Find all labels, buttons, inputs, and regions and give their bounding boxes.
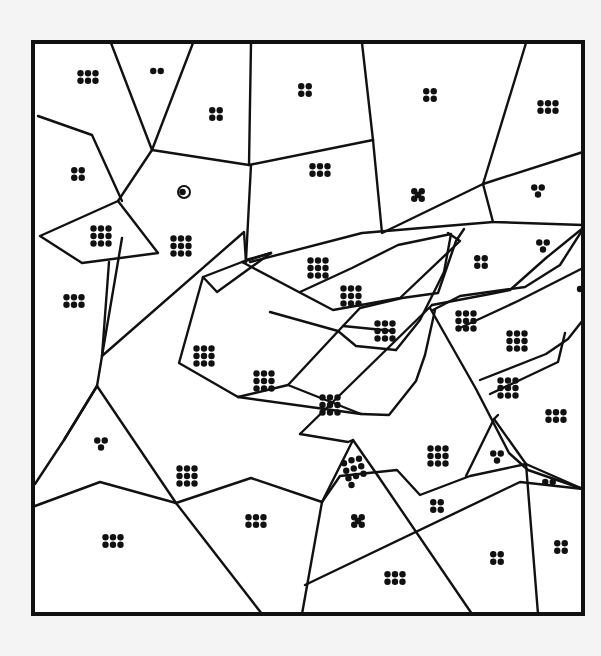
dot — [77, 78, 83, 84]
dot — [427, 460, 433, 466]
dot — [98, 225, 104, 231]
dot — [482, 263, 488, 269]
dot — [497, 377, 503, 383]
dot — [340, 293, 346, 299]
dot — [553, 409, 559, 415]
dot — [562, 548, 568, 554]
dot — [351, 465, 357, 471]
dot — [209, 107, 215, 113]
dot — [102, 534, 108, 540]
dot — [470, 325, 476, 331]
dot — [170, 243, 176, 249]
dot — [170, 235, 176, 241]
dot — [105, 240, 111, 246]
dot — [392, 571, 398, 577]
dot-cluster-r12 — [170, 235, 191, 256]
dot — [309, 163, 315, 169]
dot — [542, 479, 548, 485]
dot — [110, 542, 116, 548]
dot — [382, 335, 388, 341]
dot — [78, 302, 84, 308]
dot — [193, 353, 199, 359]
dot — [505, 392, 511, 398]
dot — [550, 479, 556, 485]
dot — [98, 240, 104, 246]
dot — [185, 235, 191, 241]
dot — [307, 265, 313, 271]
dot-cluster-r15 — [307, 257, 328, 278]
dot — [253, 514, 259, 520]
dot — [498, 559, 504, 565]
dot — [184, 473, 190, 479]
dot-cluster-r19 — [455, 310, 476, 331]
dot — [430, 507, 436, 513]
dot — [334, 409, 340, 415]
dot — [539, 184, 545, 190]
dot — [102, 437, 108, 443]
dot — [427, 445, 433, 451]
dot-cluster-r28 — [427, 445, 448, 466]
dot — [497, 385, 503, 391]
dot — [191, 480, 197, 486]
dot — [560, 409, 566, 415]
dot — [178, 243, 184, 249]
dot — [185, 250, 191, 256]
dot — [63, 294, 69, 300]
dot — [176, 465, 182, 471]
dot — [536, 239, 542, 245]
dot — [512, 385, 518, 391]
dot — [92, 70, 98, 76]
dot — [355, 285, 361, 291]
dot — [334, 402, 340, 408]
dot — [77, 70, 83, 76]
dot — [419, 196, 425, 202]
dot — [552, 100, 558, 106]
dot — [327, 394, 333, 400]
dot — [560, 417, 566, 423]
dot — [389, 335, 395, 341]
dot — [322, 265, 328, 271]
dot — [506, 330, 512, 336]
dot — [553, 417, 559, 423]
dot — [355, 293, 361, 299]
dot — [540, 246, 546, 252]
dot — [319, 409, 325, 415]
dot — [170, 250, 176, 256]
dot — [438, 499, 444, 505]
dot — [245, 522, 251, 528]
dot — [348, 293, 354, 299]
dot — [306, 91, 312, 97]
dot — [498, 551, 504, 557]
dot — [463, 318, 469, 324]
dot — [554, 540, 560, 546]
dot — [360, 471, 366, 477]
dot — [389, 320, 395, 326]
dot — [105, 233, 111, 239]
dot — [71, 302, 77, 308]
dot — [348, 482, 354, 488]
dot — [490, 551, 496, 557]
dot — [158, 68, 164, 74]
dot — [455, 318, 461, 324]
dot — [322, 272, 328, 278]
dot — [562, 540, 568, 546]
dot — [399, 579, 405, 585]
dot — [340, 300, 346, 306]
dot — [245, 514, 251, 520]
dot — [348, 300, 354, 306]
dot — [150, 68, 156, 74]
dot — [384, 579, 390, 585]
dot — [306, 83, 312, 89]
dot — [545, 100, 551, 106]
dot — [334, 394, 340, 400]
dot — [521, 345, 527, 351]
dot — [384, 571, 390, 577]
dot — [94, 437, 100, 443]
dot — [505, 385, 511, 391]
dot — [98, 444, 104, 450]
dot — [327, 409, 333, 415]
dot — [374, 328, 380, 334]
dot — [340, 285, 346, 291]
dot — [90, 240, 96, 246]
dot — [490, 450, 496, 456]
